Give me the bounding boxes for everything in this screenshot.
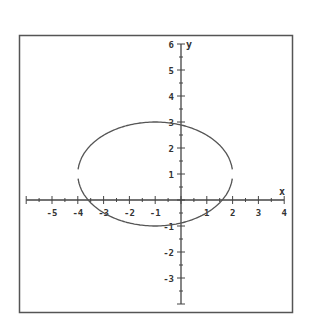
x-axis-label: x xyxy=(279,186,285,197)
y-tick-label: 1 xyxy=(169,170,174,180)
graph-plot: -5-4-3-2-11234654321-1-2-3 x y xyxy=(0,0,318,326)
x-tick-label: 4 xyxy=(281,208,287,218)
x-tick-label: -5 xyxy=(47,208,58,218)
y-tick-label: 6 xyxy=(169,40,174,50)
y-tick-label: -3 xyxy=(163,274,174,284)
y-tick-label: 5 xyxy=(169,66,174,76)
axes xyxy=(26,44,284,304)
x-tick-label: -2 xyxy=(124,208,135,218)
y-tick-label: 2 xyxy=(169,144,174,154)
y-tick-label: -1 xyxy=(163,222,174,232)
tick-marks xyxy=(26,44,284,304)
y-tick-label: -2 xyxy=(163,248,174,258)
x-tick-label: -1 xyxy=(150,208,161,218)
x-tick-label: 2 xyxy=(230,208,235,218)
y-tick-label: 4 xyxy=(169,92,175,102)
y-axis-label: y xyxy=(186,39,192,50)
plot-frame xyxy=(20,36,293,313)
tick-labels: -5-4-3-2-11234654321-1-2-3 xyxy=(47,40,288,284)
x-tick-label: -4 xyxy=(72,208,83,218)
x-tick-label: 3 xyxy=(256,208,261,218)
